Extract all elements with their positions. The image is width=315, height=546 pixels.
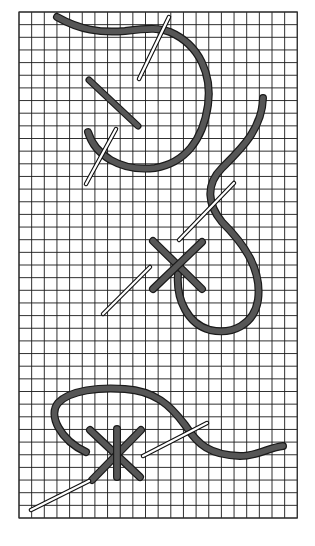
- thread-loop-bottom: [54, 388, 283, 456]
- stitch-diagram: [0, 0, 315, 546]
- star-stitch-group: [31, 388, 283, 510]
